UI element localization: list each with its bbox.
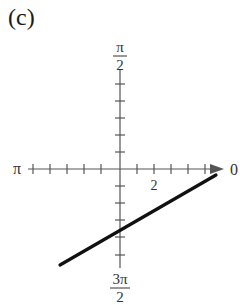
label-top-den: 2 xyxy=(116,57,124,73)
label-bottom-den: 2 xyxy=(116,289,124,305)
polar-graph: π 2 3π 2 π 0 2 xyxy=(0,0,240,305)
label-bottom-num: 3π xyxy=(112,271,128,287)
tick-label-2: 2 xyxy=(151,178,158,193)
label-left: π xyxy=(13,160,21,177)
horizontal-axis xyxy=(28,164,224,174)
label-right: 0 xyxy=(230,161,238,178)
arrowhead-icon xyxy=(210,164,224,174)
label-top-num: π xyxy=(116,39,124,55)
graph-line xyxy=(60,175,216,265)
